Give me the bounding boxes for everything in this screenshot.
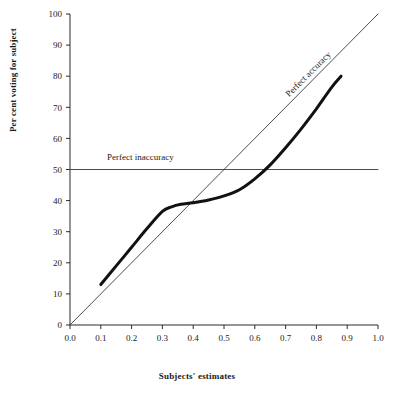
y-tick-label: 60 [53, 134, 63, 144]
x-tick-label: 0.0 [64, 333, 76, 343]
x-tick-label: 0.7 [280, 333, 292, 343]
series-line [101, 76, 341, 284]
x-tick-label: 0.9 [342, 333, 354, 343]
x-tick-label: 0.4 [188, 333, 200, 343]
plot-area: 0102030405060708090100 0.00.10.20.30.40.… [0, 0, 394, 401]
x-tick-label: 0.1 [95, 333, 106, 343]
y-tick-label: 80 [53, 71, 63, 81]
y-tick-label: 50 [53, 165, 63, 175]
annotation-group: Perfect accuracyPerfect inaccuracy [107, 49, 333, 162]
chart-annotation: Perfect accuracy [283, 49, 333, 99]
y-tick-label: 90 [53, 40, 63, 50]
x-tick-label: 0.2 [126, 333, 137, 343]
y-tick-label: 10 [53, 289, 63, 299]
x-tick-label: 0.6 [249, 333, 261, 343]
data-series-group [70, 14, 378, 325]
y-axis-title: Per cent voting for subject [8, 0, 18, 132]
x-axis: 0.00.10.20.30.40.50.60.70.80.91.0 [64, 325, 384, 343]
y-tick-label: 30 [53, 227, 63, 237]
x-tick-label: 1.0 [372, 333, 384, 343]
chart-figure: Per cent voting for subject Subjects' es… [0, 0, 394, 401]
x-axis-title: Subjects' estimates [0, 371, 394, 381]
y-axis: 0102030405060708090100 [49, 9, 71, 330]
x-tick-label: 0.8 [311, 333, 323, 343]
x-tick-label: 0.3 [157, 333, 169, 343]
x-tick-label: 0.5 [218, 333, 230, 343]
y-tick-label: 20 [53, 258, 63, 268]
y-tick-label: 100 [49, 9, 63, 19]
y-tick-label: 40 [53, 196, 63, 206]
chart-annotation: Perfect inaccuracy [107, 152, 174, 162]
y-tick-label: 0 [58, 320, 63, 330]
y-tick-label: 70 [53, 103, 63, 113]
